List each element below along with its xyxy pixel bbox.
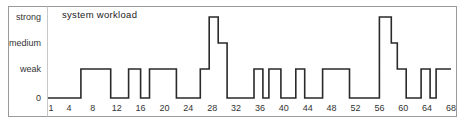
x-tick-label: 16 <box>136 103 146 113</box>
x-tick-label: 68 <box>446 103 456 113</box>
x-tick-label: 36 <box>255 103 265 113</box>
x-tick-label: 28 <box>207 103 217 113</box>
x-tick-label: 12 <box>112 103 122 113</box>
y-label-medium: medium <box>9 38 41 48</box>
chart-frame <box>9 7 457 117</box>
y-label-0: 0 <box>36 93 41 103</box>
x-tick-label: 20 <box>159 103 169 113</box>
x-tick-label: 48 <box>327 103 337 113</box>
x-tick-label: 56 <box>374 103 384 113</box>
x-axis-labels: 148121620242832364044485256606468 <box>48 103 456 113</box>
y-label-strong: strong <box>16 12 41 22</box>
workload-step-chart: system workload 0weakmediumstrong 148121… <box>0 0 465 123</box>
x-tick-label: 44 <box>303 103 313 113</box>
x-tick-label: 60 <box>398 103 408 113</box>
y-axis-labels: 0weakmediumstrong <box>9 12 42 103</box>
x-tick-label: 52 <box>350 103 360 113</box>
x-tick-label: 24 <box>183 103 193 113</box>
x-tick-label: 8 <box>90 103 95 113</box>
chart-title: system workload <box>62 9 137 20</box>
x-tick-label: 32 <box>231 103 241 113</box>
x-tick-label: 1 <box>48 103 53 113</box>
y-label-weak: weak <box>19 64 42 74</box>
workload-trace <box>48 17 451 98</box>
x-tick-label: 40 <box>279 103 289 113</box>
x-tick-label: 64 <box>422 103 432 113</box>
x-tick-label: 4 <box>66 103 71 113</box>
